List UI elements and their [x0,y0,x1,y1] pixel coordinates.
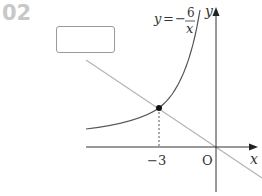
y-axis-label: y [204,3,214,19]
svg-text:=: = [163,11,174,26]
x-axis-arrow-icon [249,144,258,151]
line-graph [86,60,262,178]
svg-text:x: x [186,21,194,36]
coordinate-graph: −3 O x y y = − 6 x [0,0,262,196]
x-axis-label: x [250,151,258,167]
x-tick-label: −3 [147,153,166,168]
hyperbola-curve [86,10,200,129]
function-label: y = − 6 x [153,6,195,36]
intersection-point [156,105,162,111]
svg-text:6: 6 [187,6,195,20]
origin-label: O [202,153,213,168]
svg-text:−: − [175,11,186,26]
svg-text:y: y [153,11,162,26]
y-axis-arrow-icon [213,7,220,16]
